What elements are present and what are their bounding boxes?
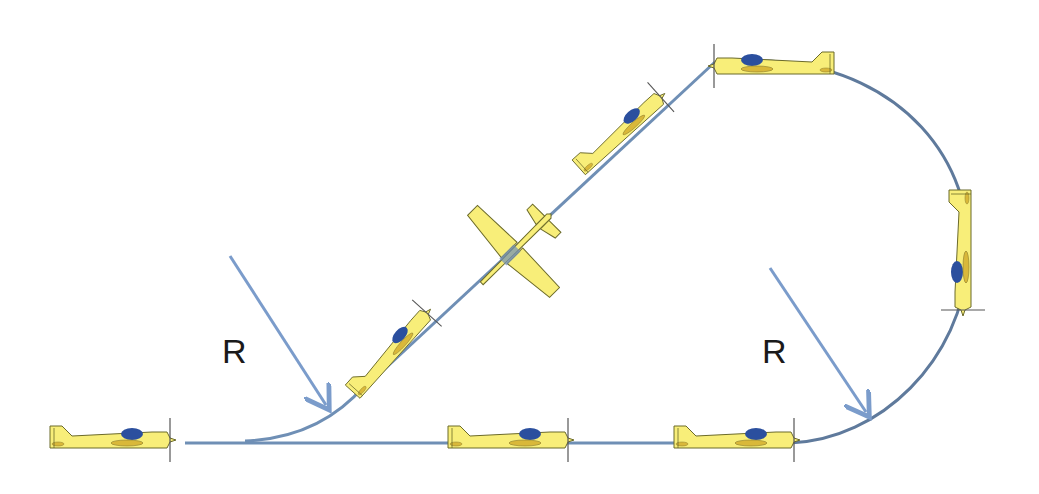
- maneuver-diagram: R R: [0, 0, 1039, 494]
- plane-climb-high-icon: [567, 79, 678, 184]
- plane-right-vertical-icon: [941, 190, 985, 316]
- plane-top-icon: [708, 44, 834, 88]
- radius-label-right: R: [762, 332, 787, 371]
- radius-label-left: R: [222, 332, 247, 371]
- radius-arrow-left: [230, 256, 326, 405]
- plane-bottom-mid-icon: [448, 418, 574, 462]
- flight-path: [185, 60, 968, 443]
- diagram-canvas: [0, 0, 1039, 494]
- plane-start-icon: [50, 418, 176, 462]
- plane-bottom-right-icon: [674, 418, 800, 462]
- plane-climb-low-icon: [340, 296, 445, 407]
